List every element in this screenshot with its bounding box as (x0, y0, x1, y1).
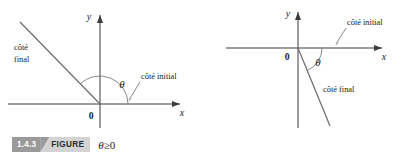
initial-side-leader-line (129, 82, 140, 100)
y-axis-label: y (285, 8, 291, 19)
terminal-side-label-line1: côté (14, 43, 28, 52)
figure-sheet: y x 0 θ côté initial côté final 1.4.3 FI… (0, 0, 412, 162)
figure-number: 1.4.3 (12, 137, 40, 152)
terminal-side-ray (20, 22, 100, 104)
initial-side-leader-line (336, 28, 346, 44)
terminal-side-label-line2: final (14, 55, 30, 64)
x-axis-label: x (381, 51, 387, 62)
origin-label: 0 (285, 52, 290, 62)
y-axis-arrowhead (295, 12, 301, 20)
figure-ribbon: 1.4.3 FIGURE (12, 137, 90, 152)
initial-side-label: côté initial (347, 18, 383, 27)
condition-value: 0 (110, 139, 116, 151)
x-axis-label: x (179, 107, 185, 118)
origin-label: 0 (89, 111, 94, 121)
figure-condition: θ≥0 (98, 139, 115, 151)
y-axis-arrowhead (97, 15, 103, 23)
angle-diagram-positive: y x 0 θ côté initial côté final (0, 0, 206, 135)
initial-side-label: côté initial (141, 72, 177, 81)
terminal-side-label: côté final (323, 85, 355, 94)
angle-theta-label: θ (119, 78, 125, 90)
figure-panel-1-4-3: y x 0 θ côté initial côté final 1.4.3 FI… (0, 0, 206, 162)
y-axis-label: y (86, 11, 92, 22)
angle-diagram-negative: y x 0 θ côté initial côté final (206, 0, 412, 135)
angle-theta-label: θ (315, 56, 321, 68)
figure-panel-1-4-4: y x 0 θ côté initial côté final 1.4.4 FI… (206, 0, 412, 162)
figure-caption-1-4-3: 1.4.3 FIGURE θ≥0 (12, 137, 115, 152)
